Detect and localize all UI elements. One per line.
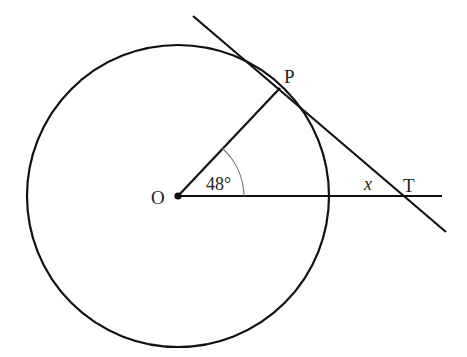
label-x: x xyxy=(363,174,372,194)
center-dot xyxy=(174,192,181,199)
label-t: T xyxy=(403,175,415,196)
geometry-diagram: O P T 48° x xyxy=(0,0,467,357)
label-p: P xyxy=(284,66,295,87)
tangent-line xyxy=(193,16,446,232)
label-angle-48: 48° xyxy=(206,174,231,194)
label-o: O xyxy=(151,187,165,208)
